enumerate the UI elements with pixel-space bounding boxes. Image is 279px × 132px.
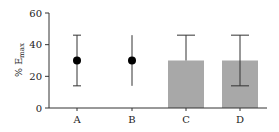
chart: % Emax 0204060 ABCD	[0, 0, 279, 132]
y-tick-label: 0	[36, 103, 42, 114]
y-tick-label: 20	[29, 71, 42, 82]
y-tick-label: 40	[29, 39, 42, 50]
x-tick-label: C	[182, 114, 190, 125]
point-B	[128, 57, 136, 65]
bars	[168, 61, 258, 109]
x-tick-label: B	[128, 114, 135, 125]
x-tick-label: D	[236, 114, 244, 125]
data-points	[73, 57, 136, 65]
x-tick-label: A	[72, 114, 81, 125]
y-tick-label: 60	[29, 8, 42, 19]
y-axis: 0204060	[29, 8, 49, 114]
y-axis-label: % Emax	[13, 43, 26, 77]
bar-C	[168, 61, 204, 109]
x-axis: ABCD	[49, 108, 267, 125]
point-A	[73, 57, 81, 65]
chart-canvas: % Emax 0204060 ABCD	[0, 0, 279, 132]
y-axis-label-text: % Emax	[13, 43, 26, 77]
